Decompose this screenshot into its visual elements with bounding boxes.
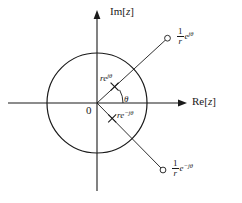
- pole-lower-exponent: −jθ: [124, 109, 133, 116]
- zero-upper-exponent: jθ: [189, 30, 194, 37]
- zero-lower-exponent: −jθ: [184, 162, 193, 169]
- theta-angle-label: θ: [124, 95, 128, 104]
- pole-upper-exponent: jθ: [107, 72, 112, 79]
- zero-upper-numerator: 1: [177, 27, 184, 36]
- zero-label-upper: 1 r ejθ: [177, 27, 194, 46]
- imaginary-axis-label-close: ]: [130, 5, 134, 17]
- pole-marker-upper: [111, 83, 119, 91]
- pole-label-upper: rejθ: [100, 74, 112, 83]
- real-axis-arrowhead: [178, 100, 187, 107]
- zero-marker-upper: [165, 35, 171, 41]
- zero-marker-lower: [160, 167, 166, 173]
- pole-marker-lower: [108, 114, 116, 122]
- theta-arc: [120, 90, 123, 103]
- real-axis-label-close: ]: [212, 95, 216, 107]
- zero-label-lower: 1 r e−jθ: [172, 159, 193, 178]
- imaginary-axis-arrowhead: [94, 10, 101, 19]
- pole-label-lower: re−jθ: [117, 111, 134, 120]
- zero-lower-numerator: 1: [172, 159, 179, 168]
- complex-plane-figure: Im[z] Re[z] 0 θ 1 r ejθ rejθ re−jθ 1 r e…: [0, 0, 242, 203]
- imaginary-axis-label-text: Im[: [110, 5, 126, 17]
- zero-upper-base: e: [185, 31, 189, 41]
- real-axis-label-text: Re[: [192, 95, 208, 107]
- zero-lower-exp-group: e−jθ: [179, 164, 193, 173]
- zero-upper-denominator: r: [177, 36, 184, 46]
- zero-lower-fraction: 1 r: [172, 159, 179, 178]
- zero-upper-fraction: 1 r: [177, 27, 184, 46]
- zero-lower-denominator: r: [172, 168, 179, 178]
- zero-lower-base: e: [180, 163, 184, 173]
- imaginary-axis-label: Im[z]: [110, 6, 134, 17]
- zero-upper-exp-group: ejθ: [184, 32, 194, 41]
- real-axis-label: Re[z]: [192, 96, 216, 107]
- origin-label: 0: [86, 105, 92, 116]
